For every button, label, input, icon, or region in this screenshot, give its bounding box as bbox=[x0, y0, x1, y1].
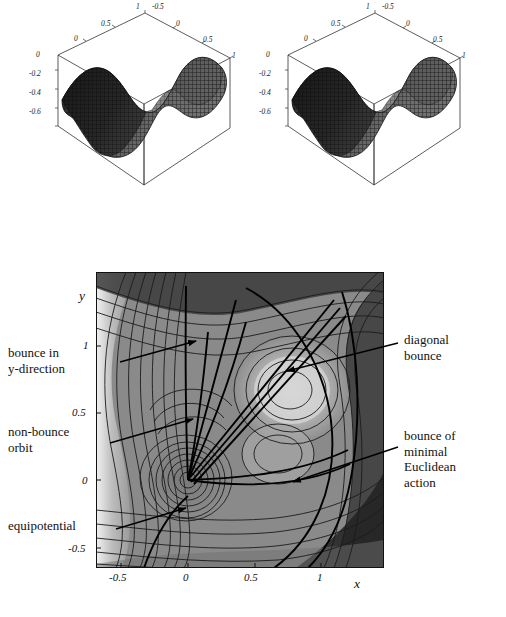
annotation-bounce-y-line-1: y-direction bbox=[8, 361, 65, 377]
contour-xtick-0: -0.5 bbox=[109, 571, 126, 583]
surface-right-xtick-2: 1 bbox=[366, 2, 370, 11]
contour-xtick-3: 1 bbox=[317, 571, 323, 583]
contour-ytick-0: -0.5 bbox=[68, 542, 85, 554]
surface-left-ytick-2: 0.5 bbox=[203, 35, 212, 44]
annotation-diagonal-bounce: diagonal bounce bbox=[404, 332, 449, 363]
contour-xtick-2: 0.5 bbox=[244, 571, 258, 583]
surface-plot-right: 0 -0.2 -0.4 -0.6 0 0.5 1 -0.5 0 0.5 1 bbox=[250, 0, 503, 200]
surface-right-ytick-0: -0.5 bbox=[382, 2, 394, 11]
surface-right-ztick-1: -0.2 bbox=[259, 69, 271, 78]
surface-right-ztick-2: -0.4 bbox=[259, 88, 271, 97]
surface-right-ytick-1: 0 bbox=[406, 19, 410, 28]
contour-ytick-2: 0.5 bbox=[72, 406, 86, 418]
surface-left-xtick-1: 0.5 bbox=[101, 19, 110, 28]
annotation-diagonal-bounce-line-0: diagonal bbox=[404, 332, 449, 348]
annotation-minimal-action-line-0: bounce of bbox=[404, 428, 456, 444]
annotation-minimal-action-line-2: Euclidean bbox=[404, 459, 456, 475]
annotation-minimal-action-line-3: action bbox=[404, 475, 456, 491]
annotation-minimal-action-line-1: minimal bbox=[404, 444, 456, 460]
contour-canvas bbox=[96, 272, 384, 568]
surface-left-ztick-2: -0.4 bbox=[29, 88, 41, 97]
annotation-non-bounce: non-bounce orbit bbox=[8, 424, 69, 455]
surface-left-xtick-2: 1 bbox=[136, 2, 140, 11]
annotation-non-bounce-line-1: orbit bbox=[8, 440, 69, 456]
annotation-minimal-action: bounce of minimal Euclidean action bbox=[404, 428, 456, 490]
contour-field bbox=[96, 272, 384, 568]
surface-right-xtick-1: 0.5 bbox=[331, 19, 340, 28]
surface-right-xtick-0: 0 bbox=[304, 34, 308, 43]
figure-root: 0 -0.2 -0.4 -0.6 0 0.5 1 -0.5 0 0.5 1 bbox=[0, 0, 506, 617]
surface-left-ztick-0: 0 bbox=[36, 50, 40, 59]
annotation-equipotential-line-0: equipotential bbox=[8, 518, 76, 534]
contour-y-axis-label: y bbox=[79, 288, 85, 304]
annotation-bounce-y-line-0: bounce in bbox=[8, 345, 65, 361]
annotation-equipotential: equipotential bbox=[8, 518, 76, 534]
surface-right-ztick-0: 0 bbox=[266, 50, 270, 59]
surface-left-ytick-1: 0 bbox=[176, 19, 180, 28]
surface-right-ztick-3: -0.6 bbox=[259, 107, 271, 116]
surface-right-ytick-2: 0.5 bbox=[433, 35, 442, 44]
annotation-bounce-y: bounce in y-direction bbox=[8, 345, 65, 376]
annotation-non-bounce-line-0: non-bounce bbox=[8, 424, 69, 440]
surface-left-ztick-1: -0.2 bbox=[29, 69, 41, 78]
surface-plot-left: 0 -0.2 -0.4 -0.6 0 0.5 1 -0.5 0 0.5 1 bbox=[0, 0, 253, 200]
contour-xtick-1: 0 bbox=[183, 571, 189, 583]
surface-left-ytick-3: 1 bbox=[232, 51, 236, 60]
contour-ytick-3: 1 bbox=[83, 339, 89, 351]
contour-x-axis-label: x bbox=[354, 576, 360, 592]
surface-left-xtick-0: 0 bbox=[74, 34, 78, 43]
contour-plot: -0.5 0 0.5 1 -0.5 0 0.5 1 x y bbox=[96, 272, 384, 568]
surface-right-ytick-3: 1 bbox=[462, 51, 466, 60]
annotation-diagonal-bounce-line-1: bounce bbox=[404, 348, 449, 364]
contour-ytick-1: 0 bbox=[82, 474, 88, 486]
surface-left-ztick-3: -0.6 bbox=[29, 107, 41, 116]
surface-left-ytick-0: -0.5 bbox=[152, 2, 164, 11]
surface-left-canvas bbox=[0, 0, 253, 200]
surface-right-canvas bbox=[250, 0, 503, 200]
